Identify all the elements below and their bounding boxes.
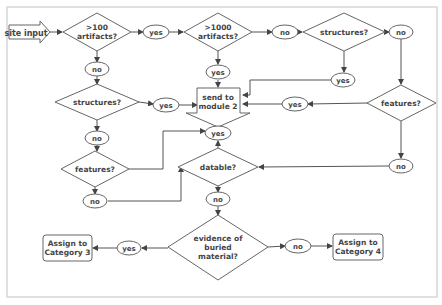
svg-text:yes: yes (211, 130, 224, 138)
decision-artifacts-100-line1: >100 (86, 23, 108, 32)
svg-text:no: no (280, 29, 290, 37)
decision-evidence-line2: buried (204, 243, 231, 252)
decision-artifacts-100-line2: artifacts? (77, 32, 117, 41)
svg-text:no: no (396, 163, 406, 171)
edge-label-a1000-no: no (272, 25, 298, 39)
edge-label-a100-yes: yes (143, 25, 169, 39)
flowchart-canvas: site input >100 artifacts? >1000 artifac… (0, 0, 442, 305)
module2-line2: module 2 (198, 102, 237, 111)
edge-label-datable-no: no (206, 192, 230, 206)
category4-line2: Category 4 (335, 247, 381, 256)
module2-line1: send to (202, 93, 234, 102)
decision-datable-label: datable? (200, 163, 236, 172)
svg-text:yes: yes (211, 69, 224, 77)
edge-label-struct-left-yes: yes (153, 98, 179, 112)
site-input-label: site input (4, 29, 47, 38)
terminal-category-4[interactable]: Assign to Category 4 (333, 234, 383, 260)
edge-label-a100-no: no (85, 62, 109, 76)
edge-label-evidence-yes: yes (117, 241, 141, 255)
svg-text:yes: yes (122, 245, 135, 253)
svg-text:no: no (92, 66, 102, 74)
decision-features-right-label: features? (381, 99, 421, 108)
svg-text:yes: yes (159, 102, 172, 110)
edge-label-a1000-yes: yes (206, 65, 230, 79)
decision-artifacts-1000-line2: artifacts? (198, 32, 238, 41)
category3-line2: Category 3 (44, 248, 90, 257)
svg-text:yes: yes (149, 29, 162, 37)
edge-label-struct-left-no: no (85, 131, 109, 145)
edge-label-feat-right-yes: yes (282, 97, 308, 111)
svg-text:yes: yes (336, 77, 349, 85)
svg-text:no: no (90, 198, 100, 206)
decision-structures-left-label: structures? (73, 98, 121, 107)
svg-text:no: no (213, 196, 223, 204)
svg-text:no: no (396, 29, 406, 37)
edge-label-struct-top-no: no (389, 25, 413, 39)
category3-line1: Assign to (48, 239, 87, 248)
category4-line1: Assign to (338, 238, 377, 247)
edge-label-feat-left-no: no (83, 194, 107, 208)
svg-text:yes: yes (288, 101, 301, 109)
edge-label-datable-yes: yes (205, 126, 231, 140)
svg-text:no: no (293, 243, 303, 251)
svg-text:no: no (92, 135, 102, 143)
terminal-category-3[interactable]: Assign to Category 3 (43, 235, 92, 261)
edge-label-struct-top-yes: yes (331, 73, 355, 87)
edge-label-feat-right-no: no (389, 159, 413, 173)
decision-features-left-label: features? (75, 165, 115, 174)
decision-evidence-line1: evidence of (194, 234, 244, 243)
edge-label-evidence-no: no (285, 239, 311, 253)
decision-structures-top-label: structures? (320, 28, 368, 37)
decision-artifacts-1000-line1: >1000 (204, 23, 231, 32)
decision-evidence-line3: material? (198, 252, 238, 261)
